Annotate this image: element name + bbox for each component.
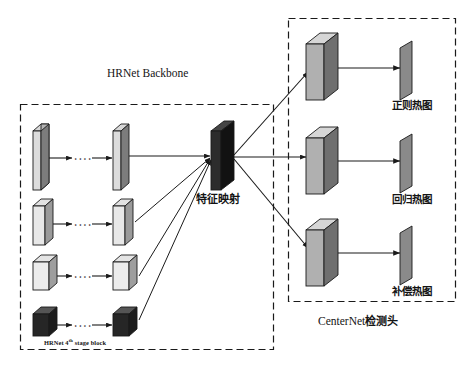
heatmap-output-3 bbox=[400, 226, 412, 285]
backbone-group-label: HRNet Backbone bbox=[107, 68, 188, 80]
head-block-1 bbox=[306, 33, 338, 100]
stage-block-suffix: stage block bbox=[73, 339, 106, 346]
feature-map-label: 特征映射 bbox=[196, 194, 240, 205]
fanin-line-3 bbox=[139, 159, 210, 276]
backbone-block-out-1 bbox=[113, 124, 129, 190]
fanout-line-bot bbox=[234, 159, 308, 248]
backbone-block-in-3 bbox=[33, 255, 57, 290]
backbone-ellipsis-4: •••• bbox=[74, 323, 93, 329]
heatmap-label-regular: 正则热图 bbox=[392, 100, 432, 111]
backbone-ellipsis-1: •••• bbox=[74, 156, 93, 162]
head-block-2 bbox=[306, 127, 338, 194]
head-block-3 bbox=[306, 219, 338, 286]
stage-block-caption: HRNet 4th stage block bbox=[44, 340, 106, 346]
backbone-group-box bbox=[21, 105, 274, 350]
fanin-line-2 bbox=[135, 158, 210, 222]
backbone-block-out-2 bbox=[113, 199, 133, 245]
feature-map-block bbox=[211, 121, 234, 190]
backbone-block-in-4 bbox=[33, 307, 57, 336]
backbone-ellipsis-2: •••• bbox=[74, 222, 93, 228]
centernet-group-label: CenterNet检测头 bbox=[318, 316, 398, 328]
backbone-block-in-2 bbox=[33, 199, 53, 245]
backbone-block-in-1 bbox=[33, 124, 49, 190]
heatmap-output-2 bbox=[400, 134, 412, 193]
fanout-line-top bbox=[234, 72, 308, 155]
heatmap-label-regression: 回归热图 bbox=[392, 194, 432, 205]
diagram-canvas: •••• •••• •••• bbox=[0, 0, 473, 378]
centernet-label-cjk: 检测头 bbox=[365, 315, 398, 328]
stage-block-prefix: HRNet 4 bbox=[44, 339, 69, 346]
diagram-vector-layer: •••• •••• •••• bbox=[0, 0, 473, 378]
heatmap-label-offset: 补偿热图 bbox=[392, 286, 432, 297]
backbone-block-out-3 bbox=[113, 255, 137, 290]
fanin-line-4 bbox=[139, 160, 211, 320]
heatmap-output-1 bbox=[400, 41, 412, 100]
centernet-label-latin: CenterNet bbox=[318, 315, 365, 327]
backbone-block-out-4 bbox=[113, 307, 137, 336]
backbone-ellipsis-3: •••• bbox=[74, 274, 93, 280]
